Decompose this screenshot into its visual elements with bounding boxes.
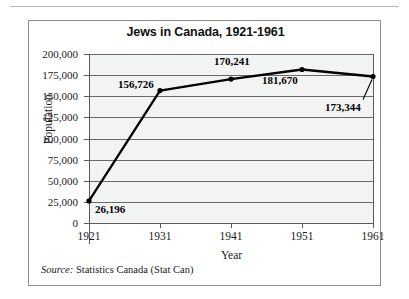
source-label: Source: [41,264,73,275]
source-note: Source: Statistics Canada (Stat Can) [41,264,193,275]
callout-leader-line [363,80,372,100]
data-point-marker [299,67,304,72]
data-series-layer [29,21,382,287]
data-point-marker [370,74,375,79]
data-point-label: 170,241 [214,56,250,67]
data-point-label: 173,344 [325,102,361,113]
data-point-marker [228,77,233,82]
data-point-label: 26,196 [95,204,125,215]
data-point-label: 156,726 [118,79,154,90]
data-point-marker [86,198,91,203]
figure-container: Jews in Canada, 1921-1961 025,00050,0007… [28,20,381,286]
source-text: Statistics Canada (Stat Can) [73,264,193,275]
data-point-marker [157,88,162,93]
x-axis-title: Year [89,249,374,261]
y-axis-title: Population [42,74,54,164]
data-point-label: 181,670 [262,75,298,86]
page-top-rule [10,6,399,7]
